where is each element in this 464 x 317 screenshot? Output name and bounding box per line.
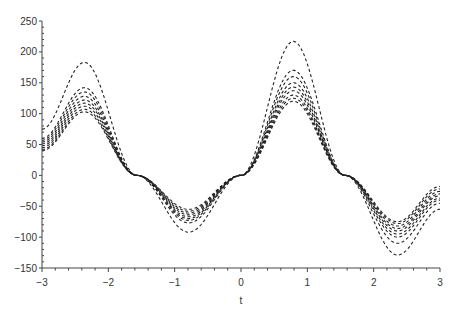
x-tick-label: −3 — [36, 277, 48, 288]
x-tick-label: 1 — [305, 277, 311, 288]
y-tick-label: 150 — [20, 77, 37, 88]
x-axis-title: t — [240, 295, 243, 306]
series-line — [42, 91, 440, 229]
y-tick-label: 100 — [20, 108, 37, 119]
series-line — [42, 83, 440, 234]
x-axis: −3−2−10123 — [36, 268, 443, 288]
line-chart: −150−100−50050100150200250 −3−2−10123 t — [0, 0, 464, 317]
y-axis: −150−100−50050100150200250 — [14, 16, 44, 274]
y-tick-label: −100 — [14, 232, 37, 243]
x-tick-label: −2 — [103, 277, 115, 288]
y-tick-label: 250 — [20, 16, 37, 27]
y-tick-label: −150 — [14, 263, 37, 274]
y-tick-label: 50 — [26, 139, 38, 150]
series-line — [42, 98, 440, 223]
x-tick-label: 3 — [437, 277, 443, 288]
plot-lines — [42, 41, 440, 255]
y-tick-label: −50 — [20, 201, 37, 212]
x-tick-label: 0 — [238, 277, 244, 288]
x-tick-label: 2 — [371, 277, 377, 288]
x-tick-label: −1 — [169, 277, 181, 288]
y-tick-label: 0 — [31, 170, 37, 181]
series-line — [42, 87, 440, 231]
y-tick-label: 200 — [20, 46, 37, 57]
